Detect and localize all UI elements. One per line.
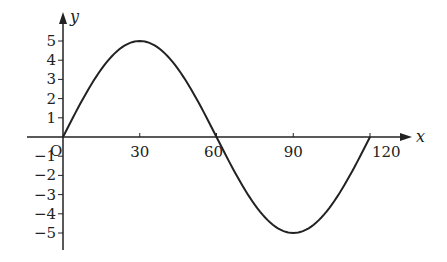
axes: 306090120−5−4−3−2−112345 [27,12,412,250]
y-tick-label: −2 [34,166,56,184]
x-axis-label: x [416,127,425,146]
y-axis-arrow-icon [59,12,67,24]
x-tick-label: 90 [284,143,303,161]
origin-label: O [50,142,62,160]
y-tick-label: 1 [46,109,56,127]
y-tick-label: 5 [46,32,56,50]
x-axis-arrow-icon [400,133,412,141]
y-tick-label: 4 [46,51,56,69]
sine-chart: 306090120−5−4−3−2−112345 x y O [0,0,447,262]
y-tick-label: 2 [46,90,56,108]
y-axis-label: y [69,7,80,26]
y-tick-label: −5 [34,224,56,242]
x-tick-label: 30 [130,143,149,161]
y-tick-label: −4 [34,205,56,223]
y-tick-label: 3 [46,70,56,88]
x-tick-label: 120 [372,143,401,161]
y-tick-label: −3 [34,186,56,204]
